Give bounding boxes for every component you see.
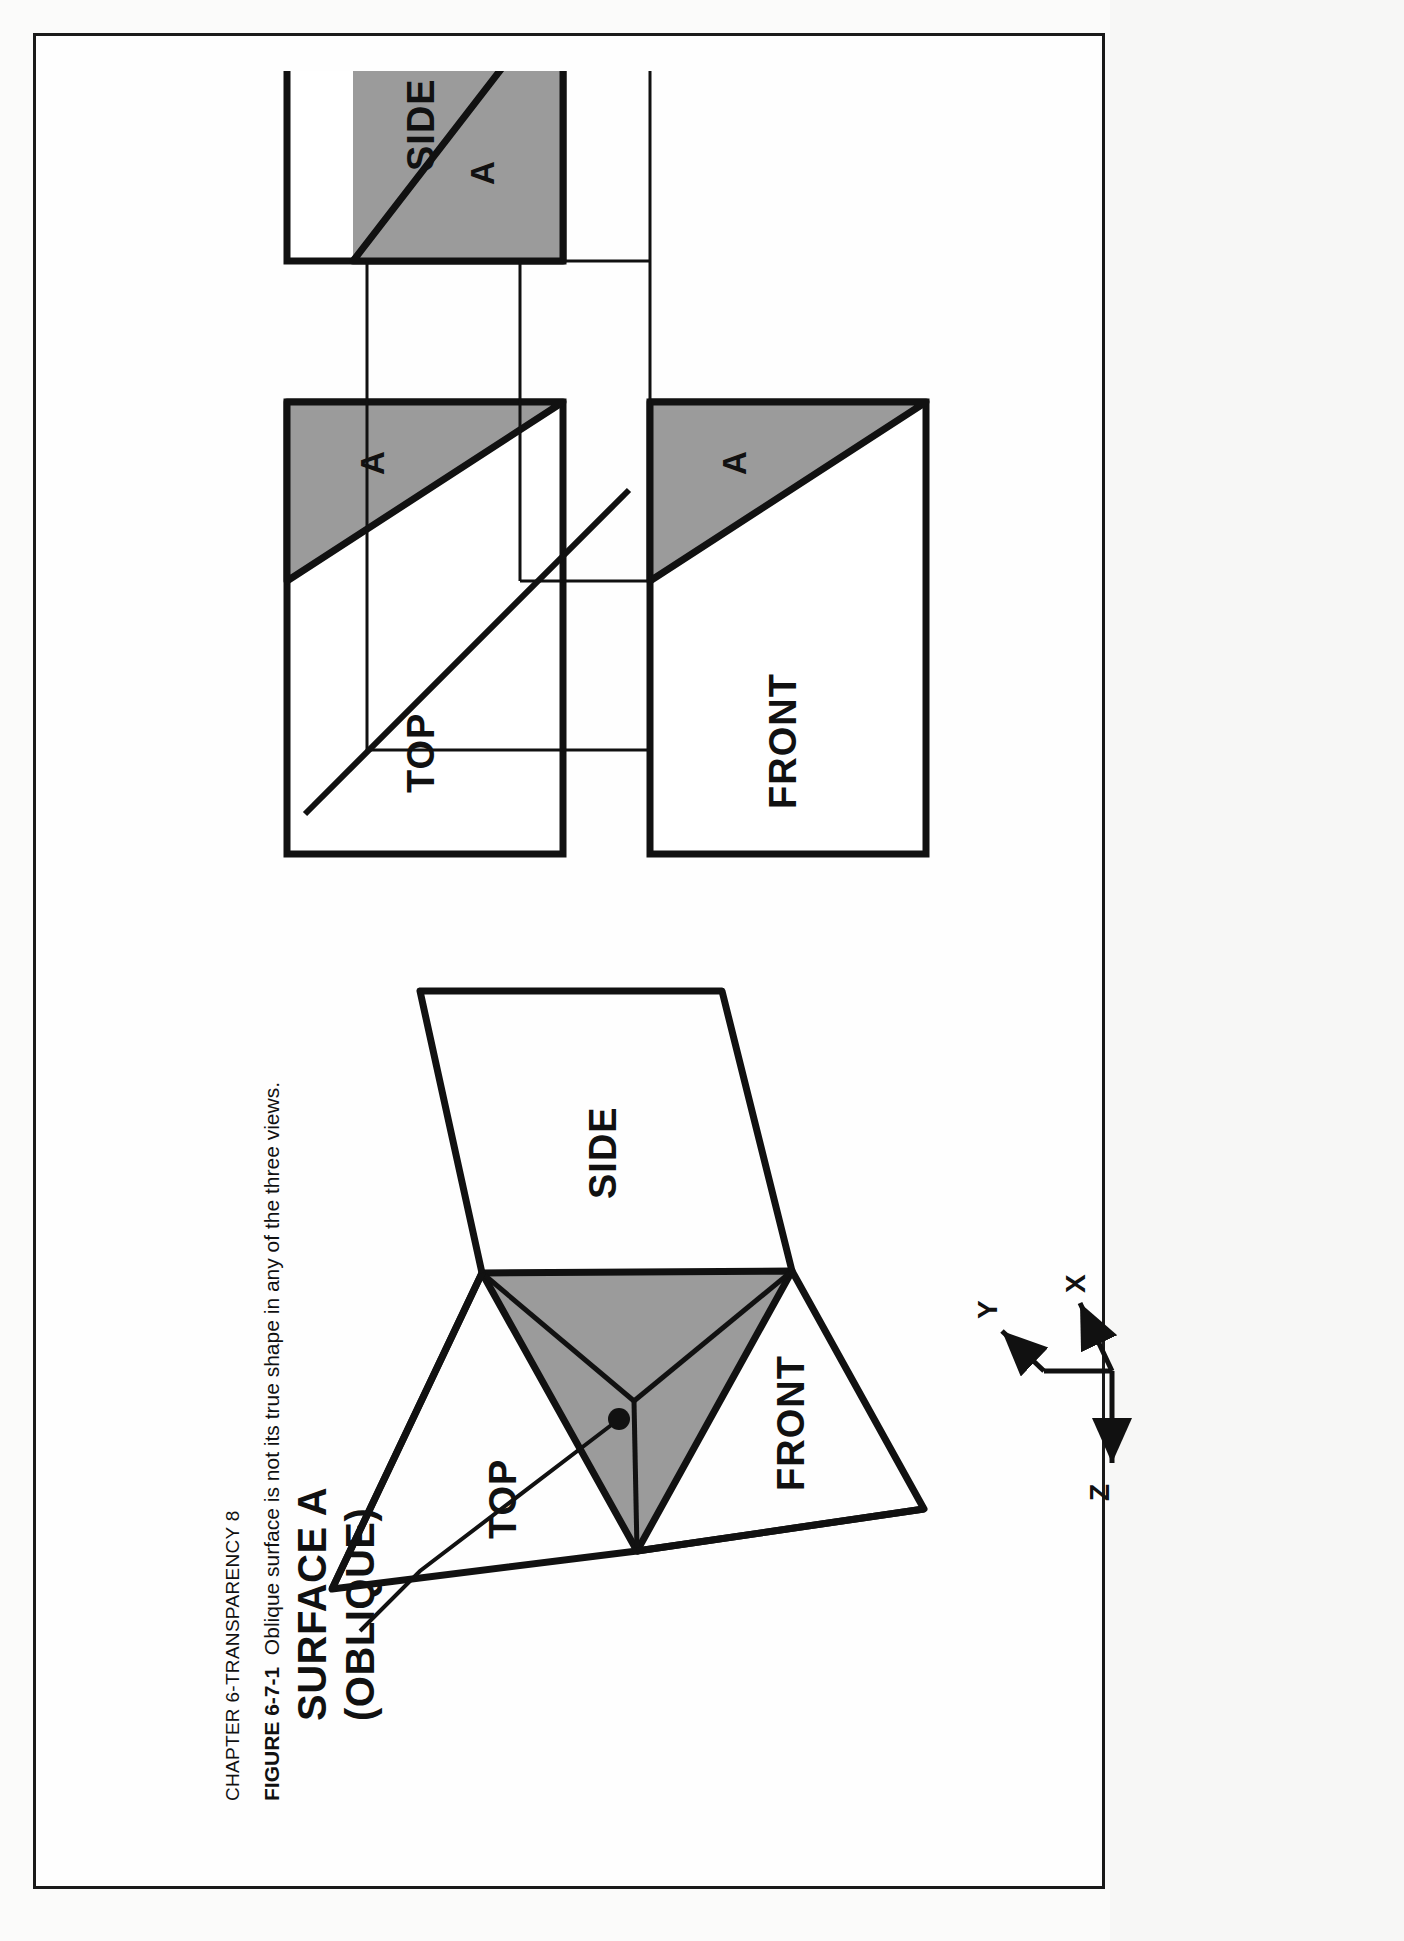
pictorial-label-top: TOP <box>482 1458 525 1538</box>
ortho-label-front: FRONT <box>762 673 805 809</box>
pictorial-front-face-edge <box>637 1509 924 1551</box>
axis-x-line <box>1080 1303 1112 1371</box>
axis-y-line <box>1002 1331 1044 1371</box>
pictorial-top-face-edge-2 <box>420 991 482 1273</box>
ortho-surface-a-side: A <box>464 161 502 185</box>
ortho-label-side: SIDE <box>400 78 443 171</box>
figure-canvas: CHAPTER 6-TRANSPARENCY 8 FIGURE 6-7-1 Ob… <box>182 71 1222 1871</box>
pictorial-side-face-edge <box>722 991 792 1271</box>
pictorial-surface-a-fold-1 <box>634 1401 637 1551</box>
ortho-surface-a-top: A <box>354 451 392 475</box>
axis-label-y: Y <box>972 1300 1004 1319</box>
pictorial-label-side: SIDE <box>582 1106 625 1199</box>
scanned-page: CHAPTER 6-TRANSPARENCY 8 FIGURE 6-7-1 Ob… <box>0 0 1404 1941</box>
callout-label-line2: (OBLIQUE) <box>338 1507 383 1720</box>
ortho-surface-a-front: A <box>716 451 754 475</box>
ortho-label-top: TOP <box>400 712 443 792</box>
callout-label-line1: SURFACE A <box>290 1486 335 1720</box>
axis-label-z: Z <box>1084 1483 1116 1500</box>
pictorial-label-front: FRONT <box>770 1355 813 1491</box>
xyz-axis-indicator <box>1002 1303 1112 1463</box>
axis-label-x: X <box>1060 1274 1092 1293</box>
